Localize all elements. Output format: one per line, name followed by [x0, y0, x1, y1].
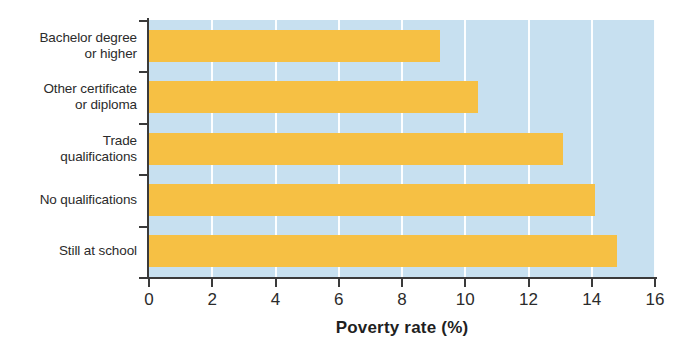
category-label: Bachelor degree or higher: [0, 30, 137, 62]
category-label: Trade qualifications: [0, 133, 137, 165]
y-axis-tick: [139, 71, 148, 73]
plot-area: [149, 20, 655, 277]
x-axis-tick: [338, 279, 340, 287]
y-axis-line: [147, 18, 149, 279]
bar: [149, 235, 617, 267]
gridline-16: [654, 20, 655, 277]
x-axis-tick-label: 14: [572, 290, 612, 310]
x-axis-tick-label: 0: [129, 290, 169, 310]
bar: [149, 133, 563, 165]
category-label: Other certificate or diploma: [0, 81, 137, 113]
x-axis-tick: [401, 279, 403, 287]
x-axis-tick: [275, 279, 277, 287]
poverty-rate-bar-chart: Bachelor degree or higherOther certifica…: [0, 0, 685, 353]
x-axis-tick-label: 8: [382, 290, 422, 310]
x-axis-tick-label: 16: [635, 290, 675, 310]
y-axis-category-labels: Bachelor degree or higherOther certifica…: [0, 20, 143, 277]
x-axis-tick-label: 6: [319, 290, 359, 310]
x-axis-tick: [464, 279, 466, 287]
y-axis-tick: [139, 277, 148, 279]
bar: [149, 81, 478, 113]
bar: [149, 30, 440, 62]
bar: [149, 184, 595, 216]
x-axis-tick-label: 4: [256, 290, 296, 310]
x-axis-tick: [654, 279, 656, 287]
category-label: No qualifications: [0, 192, 137, 208]
x-axis-tick: [528, 279, 530, 287]
y-axis-tick: [139, 226, 148, 228]
x-axis-tick-label: 12: [509, 290, 549, 310]
category-label: Still at school: [0, 243, 137, 259]
y-axis-tick: [139, 123, 148, 125]
x-axis-tick-label: 2: [192, 290, 232, 310]
y-axis-tick: [139, 174, 148, 176]
x-axis-tick: [148, 279, 150, 287]
x-axis-tick: [211, 279, 213, 287]
x-axis-title: Poverty rate (%): [149, 318, 655, 338]
x-axis-tick: [591, 279, 593, 287]
y-axis-tick: [139, 20, 148, 22]
x-axis-tick-label: 10: [445, 290, 485, 310]
